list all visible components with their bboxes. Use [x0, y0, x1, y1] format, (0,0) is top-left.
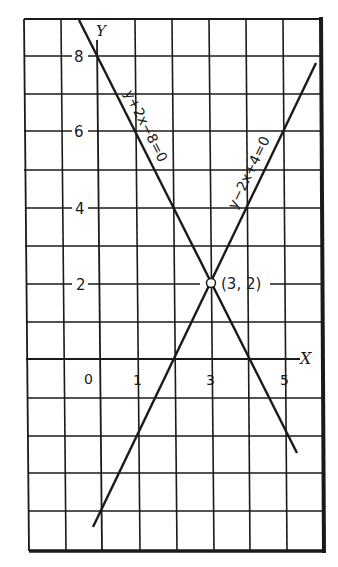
- y-axis: [97, 40, 102, 551]
- coordinate-graph: Y X 8 6 4 2 0 1 3 5 (3, 2) y+2x−8=0 y−2x…: [0, 0, 338, 567]
- x-axis-label: X: [298, 349, 312, 368]
- y-tick-4: 4: [75, 200, 85, 218]
- line-2-equation: y−2x+4=0: [224, 134, 272, 212]
- x-tick-0: 0: [84, 371, 93, 387]
- x-tick-1: 1: [133, 372, 142, 388]
- x-tick-3: 3: [206, 372, 215, 388]
- y-tick-2: 2: [76, 276, 86, 294]
- x-tick-5: 5: [280, 372, 289, 388]
- y-axis-label: Y: [96, 22, 108, 40]
- y-tick-8: 8: [74, 48, 84, 66]
- y-tick-6: 6: [74, 123, 84, 141]
- line-y-minus-2x-plus-4: [93, 63, 316, 527]
- intersection-point: [207, 279, 216, 288]
- line-y-plus-2x-minus-8: [79, 20, 297, 453]
- intersection-label: (3, 2): [221, 275, 261, 293]
- grid: [24, 19, 324, 551]
